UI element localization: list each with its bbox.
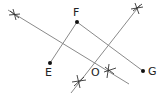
label-f: F: [73, 6, 79, 19]
arc-mark-icon: [104, 64, 116, 78]
segment-fg: [77, 22, 143, 71]
point-e: [48, 61, 52, 65]
arc-mark-icon: [131, 3, 143, 14]
point-g: [141, 69, 145, 73]
arc-mark-icon: [9, 9, 20, 20]
point-f: [75, 20, 79, 24]
diagram-canvas: F E G O: [0, 0, 165, 101]
arc-mark-icon: [72, 75, 86, 88]
label-g: G: [148, 65, 157, 78]
label-o: O: [91, 66, 100, 79]
segment-ef: [50, 22, 77, 63]
label-e: E: [45, 66, 52, 79]
